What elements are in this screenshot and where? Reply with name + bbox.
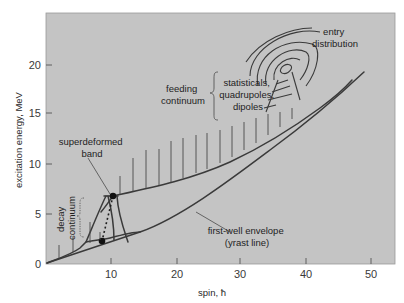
x-tick-label: 40	[300, 268, 312, 280]
excitation-energy-spin-diagram: 0 5 10 15 20 10 20 30 40 50 spin, ħ exci…	[0, 0, 404, 303]
x-axis-title: spin, ħ	[198, 287, 226, 298]
y-tick-label: 0	[35, 258, 41, 270]
y-tick-label: 10	[29, 158, 41, 170]
x-tick-label: 50	[365, 268, 377, 280]
y-tick-label: 5	[35, 208, 41, 220]
y-axis-title: excitation energy, MeV	[13, 91, 24, 188]
x-tick-label: 10	[105, 268, 117, 280]
y-tick-label: 15	[29, 107, 41, 119]
x-tick-label: 30	[234, 268, 246, 280]
y-tick-label: 20	[29, 59, 41, 71]
x-tick-label: 20	[171, 268, 183, 280]
feeding-continuum-label: feeding continuum	[161, 83, 205, 106]
sd-band-entry-point	[110, 193, 117, 200]
